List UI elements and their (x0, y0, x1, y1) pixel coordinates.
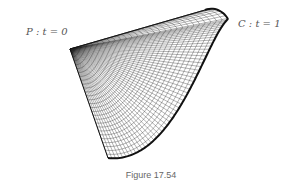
label-point-p: P : t = 0 (26, 26, 68, 37)
label-curve-c: C : t = 1 (238, 18, 281, 29)
figure: P : t = 0 C : t = 1 Figure 17.54 (0, 0, 302, 189)
figure-caption: Figure 17.54 (0, 170, 302, 180)
mesh-lines (70, 9, 228, 158)
